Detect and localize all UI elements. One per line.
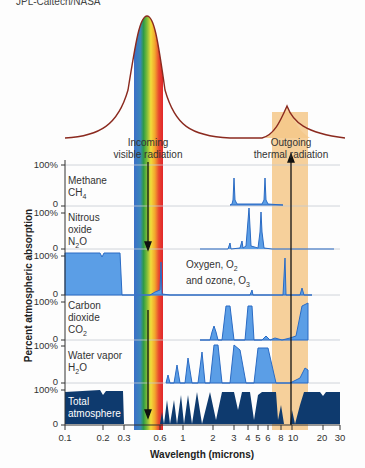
oxygen-text: Oxygen, O [186, 259, 234, 270]
xtick: 0.3 [117, 432, 130, 443]
x-axis-label: Wavelength (microns) [150, 449, 254, 460]
xtick: 10 [288, 432, 299, 443]
total-name-2: atmosphere [68, 408, 121, 420]
nitrous-name-1: Nitrous [68, 212, 100, 224]
total-atmosphere-label: Total atmosphere [68, 396, 121, 420]
ytick-oxygen-100: 100% [14, 250, 58, 261]
h2o-name: Water vapor [68, 350, 122, 362]
formula-subscript: 2 [83, 330, 87, 337]
xtick: 0.2 [96, 432, 109, 443]
co2-name-2: dioxide [68, 312, 101, 324]
oxygen-ozone-label: Oxygen, O2 and ozone, O3 [186, 259, 250, 291]
ytick-h2o-100: 100% [14, 340, 58, 351]
ozone-text: and ozone, O [186, 275, 246, 286]
xtick: 0.1 [58, 432, 71, 443]
absorption-chart [0, 0, 365, 468]
incoming-label: Incoming visible radiation [110, 137, 186, 161]
incoming-label-line2: visible radiation [110, 149, 186, 161]
ytick-nitrous-100: 100% [14, 207, 58, 218]
nitrous-formula: N2O [68, 236, 100, 252]
xtick: 2 [210, 432, 215, 443]
y-axis-label: Percent atmospheric absorption [23, 206, 34, 366]
formula-subscript: 2 [234, 265, 238, 272]
xtick: 30 [335, 432, 346, 443]
h2o-formula: H2O [68, 362, 122, 378]
ytick-total-100: 100% [14, 384, 58, 395]
oxygen-line: Oxygen, O2 [186, 259, 250, 275]
xtick: 3 [231, 432, 236, 443]
methane-name: Methane [68, 175, 107, 187]
water-vapor-label: Water vapor H2O [68, 350, 122, 378]
outgoing-label-line1: Outgoing [246, 137, 336, 149]
xtick: 5 [255, 432, 260, 443]
xtick: 8 [278, 432, 283, 443]
xtick: 0.6 [153, 432, 166, 443]
nitrous-oxide-label: Nitrous oxide N2O [68, 212, 100, 252]
xtick: 20 [317, 432, 328, 443]
nitrous-name-2: oxide [68, 224, 100, 236]
nitrous-oxide-spectrum [200, 208, 334, 249]
methane-label: Methane CH4 [68, 175, 107, 203]
xtick: 6 [265, 432, 270, 443]
incoming-label-line1: Incoming [110, 137, 186, 149]
formula-tail: O [79, 236, 87, 247]
carbon-dioxide-label: Carbon dioxide CO2 [68, 300, 101, 340]
outgoing-label-line2: thermal radiation [246, 149, 336, 161]
formula-base: CO [68, 324, 83, 335]
xtick: 4 [245, 432, 250, 443]
total-name-1: Total [68, 396, 121, 408]
ytick-total-0: 0 [14, 418, 58, 429]
ytick-co2-100: 100% [14, 296, 58, 307]
outgoing-label: Outgoing thermal radiation [246, 137, 336, 161]
formula-subscript: 3 [246, 281, 250, 288]
co2-formula: CO2 [68, 324, 101, 340]
xtick: 1 [180, 432, 185, 443]
methane-formula: CH4 [68, 187, 107, 203]
formula-base: CH [68, 187, 82, 198]
formula-subscript: 4 [82, 193, 86, 200]
ytick-methane-100: 100% [14, 159, 58, 170]
formula-tail: O [79, 362, 87, 373]
ozone-line: and ozone, O3 [186, 275, 250, 291]
co2-name-1: Carbon [68, 300, 101, 312]
